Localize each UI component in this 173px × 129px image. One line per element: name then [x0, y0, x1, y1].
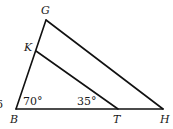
angle-label-t: 35° — [77, 95, 97, 108]
vertex-label-t: T — [113, 113, 122, 126]
vertex-label-h: H — [159, 113, 170, 126]
cropped-edge-text: 6 — [0, 98, 3, 111]
angle-label-b: 70° — [23, 95, 43, 108]
vertex-label-k: K — [23, 41, 33, 54]
segment-gh — [46, 20, 163, 109]
vertex-label-b: B — [9, 113, 18, 126]
vertex-label-g: G — [41, 4, 50, 17]
geometry-diagram: G K B T H 70° 35° 6 — [0, 0, 173, 129]
